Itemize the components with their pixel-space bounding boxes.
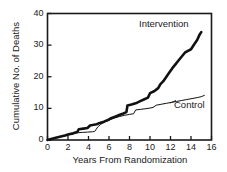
x-tick-label: 0 xyxy=(38,143,58,152)
control-series-label: Control xyxy=(174,100,205,110)
y-tick-label: 30 xyxy=(12,40,44,49)
intervention-series-label: Intervention xyxy=(139,19,189,29)
chart-figure: Cumulative No. of Deaths Years From Rand… xyxy=(0,0,227,172)
y-tick-label: 10 xyxy=(12,103,44,112)
x-axis-title: Years From Randomization xyxy=(47,155,213,165)
x-tick-label: 14 xyxy=(181,143,201,152)
x-tick-label: 10 xyxy=(140,143,160,152)
plot-frame xyxy=(48,14,212,141)
x-tick-label: 12 xyxy=(161,143,181,152)
x-tick-label: 4 xyxy=(79,143,99,152)
x-tick-label: 2 xyxy=(58,143,78,152)
y-tick-label: 40 xyxy=(12,9,44,18)
x-tick-label: 8 xyxy=(120,143,140,152)
y-tick-label: 20 xyxy=(12,72,44,81)
intervention-series-line xyxy=(48,32,202,140)
x-tick-label: 16 xyxy=(202,143,222,152)
x-tick-label: 6 xyxy=(99,143,119,152)
